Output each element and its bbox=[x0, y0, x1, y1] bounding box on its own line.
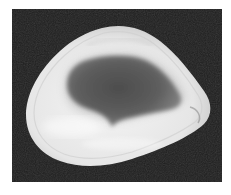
photo-frame bbox=[12, 9, 222, 182]
shell-photo bbox=[12, 9, 222, 182]
